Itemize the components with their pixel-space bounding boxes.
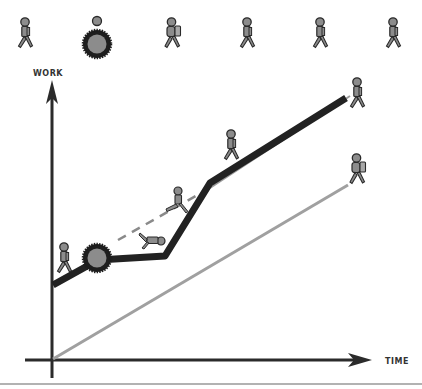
jumping-walker-icon [166,187,188,213]
top-row-icons [19,17,401,59]
y-axis [46,80,58,378]
walker-icon [225,130,239,160]
gear-obstacle-icon [83,17,111,59]
walker-icon [241,18,255,48]
walker-icon [314,18,328,48]
walker-icon [351,78,365,108]
walker-icon [19,18,33,48]
x-axis [25,353,372,367]
walker-icon [387,18,401,48]
expected-progress-dashed-line [118,188,210,240]
backpacker-icon [165,18,181,48]
backpacker-icon [350,154,366,184]
x-axis-label: TIME [385,357,409,366]
gear-obstacle-icon [83,244,111,272]
fallen-walker-icon [139,233,165,249]
work-vs-time-diagram: WORK TIME [0,0,422,389]
y-axis-label: WORK [33,69,63,78]
walker-icon [58,243,72,273]
